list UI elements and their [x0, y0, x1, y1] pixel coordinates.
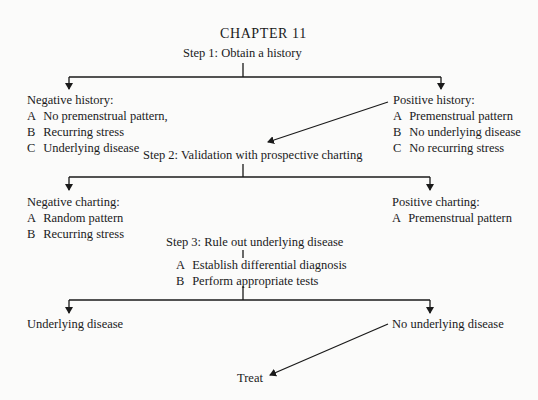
negative-history-item: B Recurring stress — [27, 125, 124, 139]
positive-history-item: B No underlying disease — [393, 125, 521, 139]
step1-title: Step 1: Obtain a history — [183, 46, 302, 60]
arrow-to-step2 — [268, 102, 388, 142]
treat-label: Treat — [237, 371, 263, 385]
positive-charting-item: A Premenstrual pattern — [392, 211, 512, 225]
negative-charting-heading: Negative charting: — [27, 195, 120, 209]
positive-history-item: A Premenstrual pattern — [393, 109, 513, 123]
negative-history-item: A No premenstrual pattern, — [27, 109, 168, 123]
negative-charting-item: B Recurring stress — [27, 227, 124, 241]
positive-history-heading: Positive history: — [393, 93, 475, 107]
positive-charting-heading: Positive charting: — [392, 195, 480, 209]
chapter-heading: CHAPTER 11 — [220, 27, 307, 41]
negative-history-heading: Negative history: — [27, 93, 113, 107]
step3-action-item: A Establish differential diagnosis — [176, 258, 347, 272]
negative-charting-item: A Random pattern — [27, 211, 123, 225]
positive-history-item: C No recurring stress — [393, 141, 504, 155]
arrow-to-treat — [270, 324, 388, 375]
step3-title: Step 3: Rule out underlying disease — [166, 235, 343, 249]
underlying-disease-outcome: Underlying disease — [27, 317, 123, 331]
step3-action-item: B Perform appropriate tests — [176, 274, 318, 288]
no-underlying-disease-outcome: No underlying disease — [392, 317, 504, 331]
step2-title: Step 2: Validation with prospective char… — [143, 148, 363, 162]
negative-history-item: C Underlying disease — [27, 141, 139, 155]
